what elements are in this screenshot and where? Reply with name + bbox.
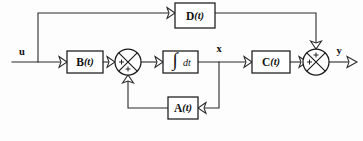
block-layer: D(t) B(t) ∫ dt C(t) A(t) [67, 3, 290, 119]
wire-x-branch-to-a [205, 62, 219, 108]
block-a-label: A(t) [174, 101, 192, 114]
block-a[interactable]: A(t) [168, 97, 198, 119]
block-c-label: C(t) [262, 55, 280, 68]
block-diagram-svg: D(t) B(t) ∫ dt C(t) A(t) [0, 0, 363, 141]
right-summing-junction[interactable] [303, 49, 329, 75]
block-d-label: D(t) [186, 9, 204, 22]
block-b-label: B(t) [76, 55, 94, 68]
signal-label-u: u [19, 46, 25, 57]
block-integrator[interactable]: ∫ dt [163, 49, 198, 73]
left-summing-junction[interactable] [115, 49, 141, 75]
signal-label-y: y [336, 45, 342, 56]
block-c[interactable]: C(t) [252, 51, 290, 73]
wire-d-to-sum [215, 13, 316, 43]
wire-a-to-sum [128, 81, 168, 108]
block-b[interactable]: B(t) [67, 51, 103, 73]
block-d[interactable]: D(t) [175, 3, 215, 28]
integral-dt-label: dt [183, 57, 191, 68]
block-integrator-rect [163, 51, 198, 73]
block-diagram-canvas: D(t) B(t) ∫ dt C(t) A(t) [0, 0, 363, 141]
arrowhead-output-y [347, 57, 357, 68]
signal-label-x: x [216, 43, 222, 54]
